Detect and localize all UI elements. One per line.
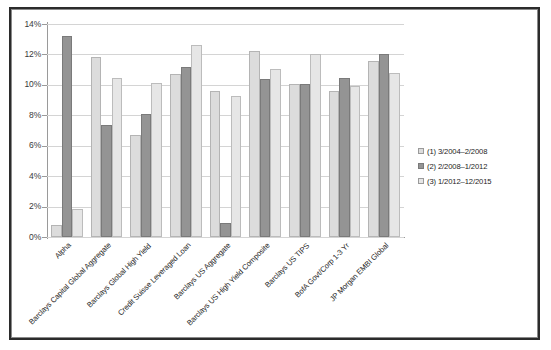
y-axis-tick-label: 0% — [1, 232, 41, 242]
y-axis-tick-mark — [42, 85, 47, 86]
bar — [389, 73, 400, 237]
bar — [249, 51, 260, 237]
y-axis-tick-label: 14% — [1, 19, 41, 29]
y-axis-tick-label: 4% — [1, 171, 41, 181]
bar — [289, 84, 300, 237]
y-axis-tick-mark — [42, 24, 47, 25]
y-axis-tick-mark — [42, 146, 47, 147]
y-axis-tick-label: 8% — [1, 110, 41, 120]
bar — [329, 91, 340, 237]
bar — [231, 96, 242, 237]
bar — [151, 83, 162, 237]
y-axis-tick-label: 10% — [1, 79, 41, 89]
bar-group — [368, 24, 400, 237]
bar — [260, 79, 271, 237]
bar-group — [51, 24, 83, 237]
gridline — [47, 237, 404, 238]
bar — [300, 84, 311, 237]
bar — [310, 54, 321, 237]
bar — [210, 91, 221, 237]
bar — [51, 225, 62, 237]
chart-legend: (1) 3/2004–2/2008(2) 2/2008–1/2012(3) 1/… — [418, 146, 528, 191]
legend-item[interactable]: (2) 2/2008–1/2012 — [418, 161, 528, 171]
y-axis-tick-mark — [42, 54, 47, 55]
y-axis-tick-mark — [42, 176, 47, 177]
plot-area — [47, 24, 404, 237]
bar — [112, 78, 123, 237]
bar — [191, 45, 202, 237]
y-axis-tick-label: 12% — [1, 49, 41, 59]
bar-group — [249, 24, 281, 237]
y-axis-tick-mark — [42, 207, 47, 208]
y-axis-tick-label: 2% — [1, 201, 41, 211]
chart-figure: 14%12%10%8%6%4%2%0% AlphaBarclays Capita… — [0, 0, 551, 350]
bar — [339, 78, 350, 237]
bar-group — [210, 24, 242, 237]
bar — [101, 125, 112, 237]
legend-item-label: (1) 3/2004–2/2008 — [427, 147, 487, 156]
bar-group — [329, 24, 361, 237]
legend-swatch-icon — [418, 178, 424, 184]
legend-item-label: (3) 1/2012–12/2015 — [427, 177, 492, 186]
legend-item[interactable]: (1) 3/2004–2/2008 — [418, 146, 528, 156]
y-axis-tick-mark — [42, 237, 47, 238]
bar — [141, 114, 152, 237]
legend-swatch-icon — [418, 148, 424, 154]
bar — [91, 57, 102, 237]
bar — [379, 54, 390, 237]
bar-group — [130, 24, 162, 237]
legend-swatch-icon — [418, 163, 424, 169]
bar-group — [170, 24, 202, 237]
y-axis-tick-mark — [42, 115, 47, 116]
bar — [350, 86, 361, 237]
bar-group — [289, 24, 321, 237]
y-axis-tick-labels: 14%12%10%8%6%4%2%0% — [0, 0, 41, 350]
bar — [181, 67, 192, 237]
bar — [270, 69, 281, 237]
bar — [170, 74, 181, 237]
bar — [368, 61, 379, 237]
legend-item[interactable]: (3) 1/2012–12/2015 — [418, 176, 528, 186]
bar — [72, 209, 83, 237]
legend-item-label: (2) 2/2008–1/2012 — [427, 162, 487, 171]
bar — [130, 135, 141, 237]
bar — [220, 223, 231, 237]
y-axis-tick-label: 6% — [1, 140, 41, 150]
bar-group — [91, 24, 123, 237]
bar — [62, 36, 73, 237]
